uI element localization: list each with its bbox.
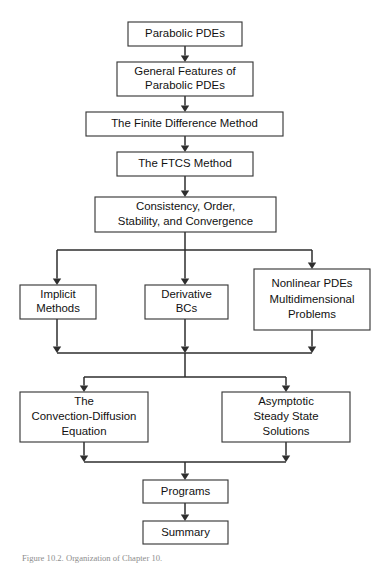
connector-e-ftcs-to-consistency: [181, 176, 189, 197]
node-ftcs-method: The FTCS Method: [117, 152, 253, 176]
arrow-head-icon: [308, 263, 316, 269]
node-label-convection-diffusion: Equation: [62, 425, 107, 437]
node-label-summary: Summary: [161, 526, 210, 538]
node-label-convection-diffusion: Convection-Diffusion: [32, 410, 137, 422]
arrow-head-icon: [181, 191, 189, 197]
node-parabolic-pdes: Parabolic PDEs: [128, 22, 242, 46]
arrow-head-icon: [181, 106, 189, 112]
node-programs: Programs: [143, 480, 228, 503]
caption-layer: Figure 10.2. Organization of Chapter 10.: [22, 553, 162, 563]
arrow-head-icon: [282, 456, 290, 462]
node-label-derivative-bcs: BCs: [176, 302, 198, 314]
node-summary: Summary: [143, 521, 228, 544]
node-label-asymptotic-steady-state: Solutions: [263, 425, 310, 437]
node-label-finite-difference-method: The Finite Difference Method: [111, 117, 258, 129]
connector-e-split-to-derivative: [181, 250, 189, 285]
node-implicit-methods: ImplicitMethods: [20, 285, 96, 319]
node-finite-difference-method: The Finite Difference Method: [86, 112, 283, 136]
node-label-implicit-methods: Implicit: [40, 288, 76, 300]
node-nonlinear-multidimensional: Nonlinear PDEsMultidimensionalProblems: [254, 269, 370, 330]
node-label-programs: Programs: [161, 485, 211, 497]
figure-caption: Figure 10.2. Organization of Chapter 10.: [22, 553, 162, 563]
connector-e-nonlinear-to-merge: [308, 330, 316, 353]
arrow-head-icon: [181, 56, 189, 62]
connector-e-asymptotic-to-merge: [282, 442, 290, 462]
flowchart-canvas: Parabolic PDEsGeneral Features ofParabol…: [0, 0, 389, 565]
node-label-asymptotic-steady-state: Asymptotic: [258, 395, 314, 407]
connector-e-fdm-to-ftcs: [181, 136, 189, 152]
connector-e-general-to-fdm: [181, 96, 189, 112]
connector-e-derivative-to-merge: [181, 319, 189, 353]
connector-e-programs-to-summary: [181, 503, 189, 521]
node-label-nonlinear-multidimensional: Multidimensional: [270, 293, 355, 305]
node-label-nonlinear-multidimensional: Problems: [288, 308, 336, 320]
node-layer: Parabolic PDEsGeneral Features ofParabol…: [20, 22, 370, 544]
arrow-head-icon: [181, 474, 189, 480]
node-label-parabolic-pdes: Parabolic PDEs: [145, 27, 225, 39]
connector-e-split-to-convection: [80, 377, 88, 392]
node-label-general-features: Parabolic PDEs: [145, 79, 225, 91]
connector-e-parabolic-to-general: [181, 46, 189, 62]
flowchart-diagram: Parabolic PDEsGeneral Features ofParabol…: [0, 0, 389, 565]
arrow-head-icon: [53, 347, 61, 353]
node-label-implicit-methods: Methods: [36, 302, 80, 314]
node-label-general-features: General Features of: [134, 65, 236, 77]
connector-e-split-to-implicit: [53, 250, 61, 285]
arrow-head-icon: [282, 386, 290, 392]
connector-e-convection-to-merge: [80, 442, 88, 462]
node-label-asymptotic-steady-state: Steady State: [253, 410, 318, 422]
node-convection-diffusion: TheConvection-DiffusionEquation: [20, 392, 148, 442]
node-derivative-bcs: DerivativeBCs: [145, 285, 228, 319]
node-label-nonlinear-multidimensional: Nonlinear PDEs: [271, 277, 352, 289]
node-asymptotic-steady-state: AsymptoticSteady StateSolutions: [222, 392, 350, 442]
arrow-head-icon: [181, 347, 189, 353]
arrow-head-icon: [80, 386, 88, 392]
node-general-features: General Features ofParabolic PDEs: [117, 62, 253, 96]
arrow-head-icon: [181, 146, 189, 152]
connector-e-implicit-to-merge: [53, 319, 61, 353]
arrow-head-icon: [308, 347, 316, 353]
arrow-head-icon: [181, 515, 189, 521]
node-label-derivative-bcs: Derivative: [161, 288, 212, 300]
arrow-head-icon: [80, 456, 88, 462]
connector-e-split-to-nonlinear: [308, 250, 316, 269]
node-label-consistency-order-stability: Consistency, Order,: [136, 200, 235, 212]
arrow-head-icon: [181, 279, 189, 285]
node-label-consistency-order-stability: Stability, and Convergence: [118, 215, 253, 227]
node-consistency-order-stability: Consistency, Order,Stability, and Conver…: [95, 197, 276, 232]
node-label-convection-diffusion: The: [74, 395, 94, 407]
connector-e-split-to-asymptotic: [282, 377, 290, 392]
node-label-ftcs-method: The FTCS Method: [138, 157, 232, 169]
connector-e-merge-to-programs: [181, 462, 189, 480]
arrow-head-icon: [53, 279, 61, 285]
